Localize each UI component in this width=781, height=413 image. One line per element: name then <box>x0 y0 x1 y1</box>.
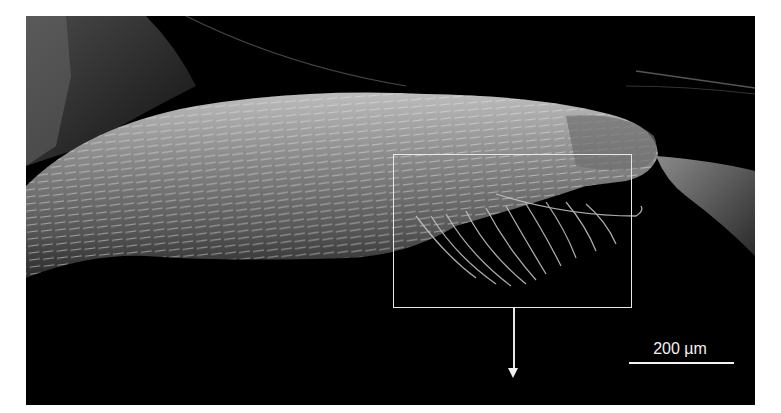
arrow-down-icon <box>508 368 518 378</box>
inset-highlight-box <box>393 154 632 308</box>
arrow-shaft <box>513 308 515 368</box>
sem-micrograph: 200 µm <box>26 16 755 405</box>
scale-bar <box>629 362 734 364</box>
scale-bar-label: 200 µm <box>630 340 730 358</box>
